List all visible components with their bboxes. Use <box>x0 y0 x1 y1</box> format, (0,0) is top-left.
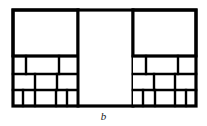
figure-caption-label: b <box>101 111 107 122</box>
right-wall-panel <box>133 10 196 106</box>
center-opening-fill <box>78 10 133 106</box>
figure-caption-row: b <box>0 106 207 126</box>
figure-container: b <box>0 0 207 126</box>
left-wall-panel <box>13 10 78 106</box>
center-opening-panel <box>78 10 133 106</box>
